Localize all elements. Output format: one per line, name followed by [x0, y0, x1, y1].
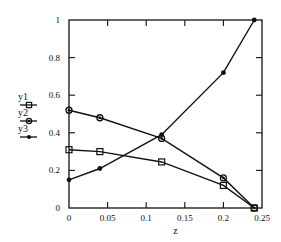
- x-tick-label: 0.1: [141, 213, 152, 223]
- line-chart: 00.20.40.60.81 00.050.10.150.20.25 z y1y…: [0, 0, 281, 242]
- series-y3: [67, 18, 257, 183]
- x-tick-label: 0.15: [177, 213, 193, 223]
- legend-item-y1: y1: [18, 91, 37, 108]
- series-lines: [66, 18, 257, 211]
- y-tick-label: 0.4: [49, 128, 61, 138]
- legend-item-y2: y2: [18, 107, 37, 124]
- y-axis: 00.20.40.60.81: [49, 15, 262, 213]
- y-tick-label: 0.6: [49, 90, 61, 100]
- legend-label: y2: [18, 107, 28, 118]
- series-y1: [66, 147, 257, 211]
- x-axis-title: z: [173, 225, 178, 236]
- y-tick-label: 0.2: [49, 165, 60, 175]
- y-tick-label: 0.8: [49, 53, 61, 63]
- plot-frame: [69, 20, 262, 208]
- y-tick-label: 1: [56, 15, 61, 25]
- x-axis: 00.050.10.150.20.25: [67, 20, 271, 223]
- x-tick-label: 0.2: [218, 213, 229, 223]
- x-tick-label: 0: [67, 213, 72, 223]
- y-tick-label: 0: [56, 203, 61, 213]
- x-tick-label: 0.05: [100, 213, 116, 223]
- x-tick-label: 0.25: [254, 213, 270, 223]
- legend: y1y2y3: [18, 91, 37, 139]
- legend-label: y3: [18, 123, 28, 134]
- legend-item-y3: y3: [18, 123, 37, 139]
- legend-label: y1: [18, 91, 28, 102]
